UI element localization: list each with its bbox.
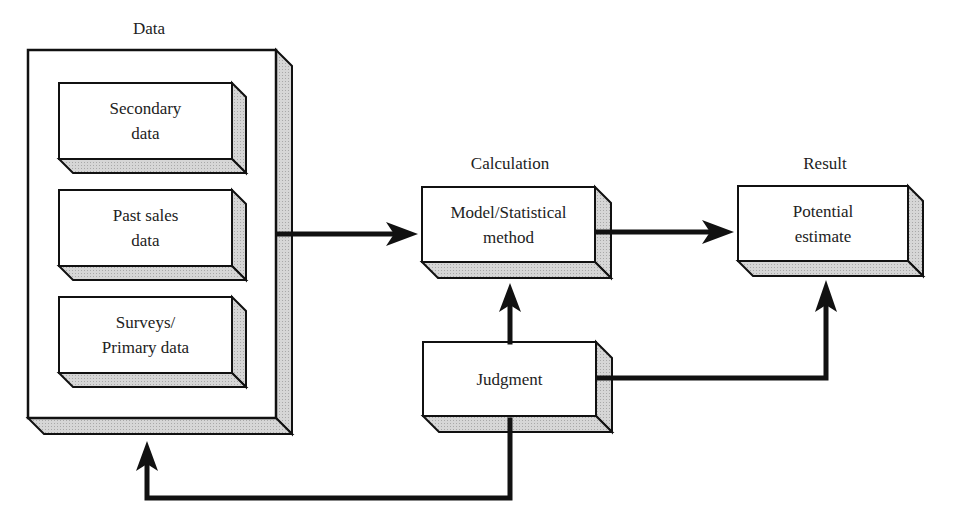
secondary-data-text: Secondary data bbox=[59, 83, 232, 159]
judgment-text: Judgment bbox=[423, 342, 596, 416]
model-statistical-method-text: Model/Statistical method bbox=[422, 187, 595, 262]
calculation-label: Calculation bbox=[440, 152, 580, 176]
potential-estimate-text: Potential estimate bbox=[738, 186, 908, 261]
data-group-label: Data bbox=[104, 17, 194, 41]
surveys-primary-data-text: Surveys/ Primary data bbox=[59, 297, 232, 373]
arrow-judgment-to-result bbox=[598, 298, 826, 378]
past-sales-data-text: Past sales data bbox=[59, 190, 232, 266]
result-label: Result bbox=[780, 152, 870, 176]
